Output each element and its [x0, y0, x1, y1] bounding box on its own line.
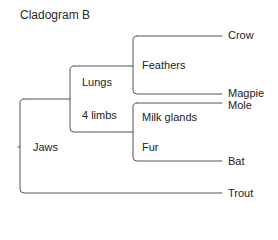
leaf-label-crow: Crow [228, 29, 254, 41]
leaf-label-mole: Mole [228, 99, 252, 111]
trait-label-feathers: Feathers [142, 59, 185, 71]
trait-label-jaws: Jaws [33, 141, 58, 153]
trait-label-milk-glands: Milk glands [142, 111, 197, 123]
leaf-label-trout: Trout [228, 187, 253, 199]
leaf-label-bat: Bat [228, 155, 245, 167]
leaf-label-magpie: Magpie [228, 87, 264, 99]
trait-label-lungs: Lungs [82, 76, 112, 88]
trait-label-4-limbs: 4 limbs [82, 109, 117, 121]
trait-label-fur: Fur [142, 141, 159, 153]
